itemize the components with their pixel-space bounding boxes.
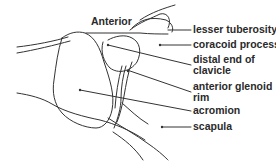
label-lesser-tuberosity: lesser tuberosity: [193, 24, 276, 35]
leader-anterior-glenoid: [130, 71, 191, 92]
label-anterior-glenoid-rim-line2: rim: [193, 92, 209, 103]
tuberosity-curve-b: [132, 18, 173, 32]
leader-acromion: [80, 90, 191, 111]
label-distal-end-of-clavicle-line2: clavicle: [193, 65, 231, 76]
label-coracoid-process: coracoid process: [193, 39, 276, 50]
leader-dot-coracoid: [159, 44, 161, 46]
tuberosity-curve-a: [130, 14, 170, 30]
leader-distal-clavicle: [108, 45, 191, 65]
label-acromion: acromion: [193, 105, 240, 116]
leader-dot-distal-clavicle: [107, 44, 109, 46]
tuberosity-curve-c: [140, 5, 175, 20]
scapula-line-c: [122, 103, 148, 124]
scapula-line-a: [17, 93, 145, 140]
leader-dot-scapula: [161, 126, 163, 128]
leader-dot-glenoid: [127, 70, 129, 72]
humeral-head-outline: [53, 32, 113, 128]
orientation-label: Anterior: [91, 16, 132, 27]
label-scapula: scapula: [193, 121, 232, 132]
coracoid-loop: [102, 36, 140, 72]
leader-dot-acromion: [79, 89, 81, 91]
anterior-top-line: [86, 33, 168, 34]
